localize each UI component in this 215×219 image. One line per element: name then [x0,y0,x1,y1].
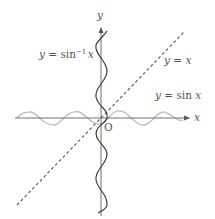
function-graph: y x O y = sin−1x y = x y = sin x [0,0,215,219]
x-axis-label: x [194,111,200,123]
arcsin-label: y = sin−1x [38,48,94,60]
sin-label: y = sin x [154,89,201,101]
identity-label: y = x [163,54,191,66]
y-axis-label: y [96,9,104,21]
origin-label: O [104,121,113,133]
